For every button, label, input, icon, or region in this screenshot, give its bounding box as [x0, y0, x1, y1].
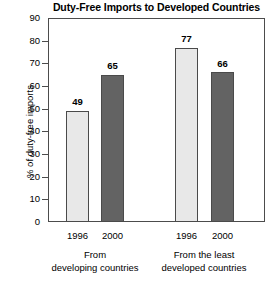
group-caption-least-developed-line1: From the least: [139, 249, 269, 262]
y-axis-tick-label: 50: [0, 104, 40, 114]
bar-value-label-developing-1996: 49: [60, 97, 95, 107]
y-axis-tick-label: 10: [0, 194, 40, 204]
x-axis-label-developing-1996: 1996: [60, 231, 95, 241]
bar-developing-1996[interactable]: [66, 111, 89, 222]
y-axis-tick-label: 80: [0, 36, 40, 46]
y-axis-tick-label: 70: [0, 58, 40, 68]
bar-least-developed-2000[interactable]: [211, 72, 234, 222]
y-axis-tick-label: 20: [0, 172, 40, 182]
chart-title: Duty-Free Imports to Developed Countries: [48, 1, 265, 13]
group-caption-least-developed: From the least developed countries: [139, 249, 269, 274]
bar-value-label-developing-2000: 65: [95, 61, 130, 71]
x-axis-label-least-developed-2000: 2000: [205, 231, 240, 241]
group-caption-least-developed-line2: developed countries: [139, 262, 269, 275]
y-axis-tick-label: 40: [0, 126, 40, 136]
bar-developing-2000[interactable]: [101, 75, 124, 222]
chart-figure: Duty-Free Imports to Developed Countries…: [0, 0, 269, 289]
y-axis-tick-label: 90: [0, 13, 40, 23]
bar-value-label-least-developed-1996: 77: [169, 34, 204, 44]
bar-value-label-least-developed-2000: 66: [205, 59, 240, 69]
y-axis-tick-label: 60: [0, 81, 40, 91]
x-axis-label-developing-2000: 2000: [95, 231, 130, 241]
y-axis-tick-label: 0: [0, 217, 40, 227]
y-axis-tick-label: 30: [0, 149, 40, 159]
x-axis-label-least-developed-1996: 1996: [169, 231, 204, 241]
bar-least-developed-1996[interactable]: [175, 48, 198, 223]
